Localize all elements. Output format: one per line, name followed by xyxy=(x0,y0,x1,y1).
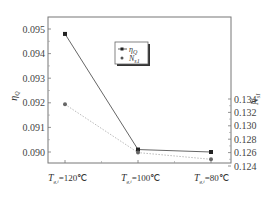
right-tick-label: 0.126 xyxy=(234,147,257,158)
y-axis-left-label: ηQ xyxy=(8,91,20,101)
n-s1-point xyxy=(136,151,140,155)
legend-circle-marker-icon xyxy=(121,57,124,60)
left-tick-label: 0.092 xyxy=(23,97,46,108)
eta-q-point xyxy=(63,32,67,36)
left-tick-label: 0.093 xyxy=(23,73,46,84)
n-s1-point xyxy=(63,102,67,106)
category-labels: Tg,i=120℃Tg,i=100℃Tg,i=80℃ xyxy=(48,172,229,185)
left-axis: 0.0900.0910.0920.0930.0940.095 xyxy=(23,24,52,158)
legend-square-marker-icon xyxy=(121,48,124,51)
right-tick-label: 0.124 xyxy=(234,161,257,172)
left-tick-label: 0.090 xyxy=(23,147,46,158)
right-tick-label: 0.130 xyxy=(234,120,257,131)
dual-axis-line-chart: 0.0900.0910.0920.0930.0940.095 0.1240.12… xyxy=(0,0,276,197)
category-label: Tg,i=80℃ xyxy=(194,172,229,185)
category-label: Tg,i=100℃ xyxy=(121,172,160,185)
legend: ηQ Ns1 xyxy=(115,42,150,66)
plot-frame xyxy=(48,17,231,163)
left-tick-label: 0.094 xyxy=(23,48,46,59)
left-tick-label: 0.095 xyxy=(23,24,46,35)
left-tick-label: 0.091 xyxy=(23,122,46,133)
series-n-s1 xyxy=(63,102,213,161)
eta-q-point xyxy=(209,150,213,154)
right-tick-label: 0.128 xyxy=(234,134,257,145)
category-label: Tg,i=120℃ xyxy=(48,172,87,185)
right-tick-label: 0.132 xyxy=(234,107,257,118)
n-s1-point xyxy=(209,157,213,161)
